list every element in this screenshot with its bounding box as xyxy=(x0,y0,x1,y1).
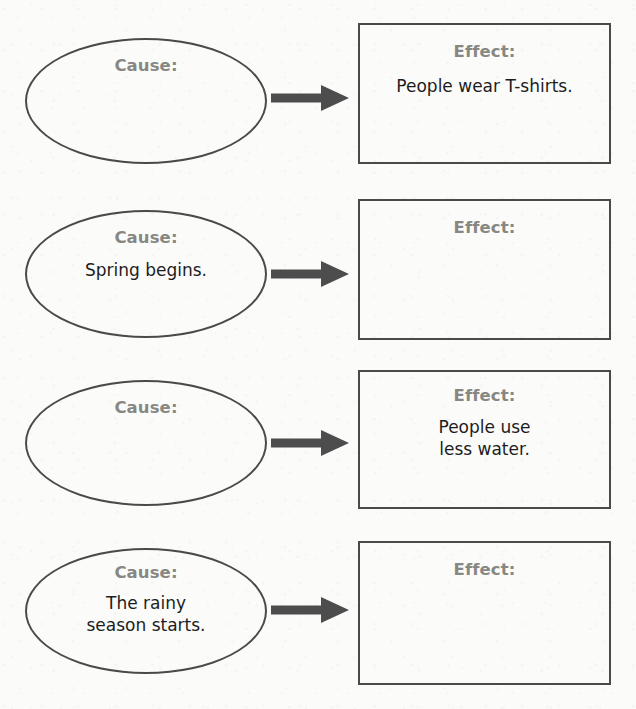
effect-text-1: People wear T-shirts. xyxy=(396,75,572,97)
right-arrow-icon-2 xyxy=(271,258,351,290)
cause-text-4: The rainy season starts. xyxy=(86,593,205,637)
right-arrow-icon-3 xyxy=(271,427,351,459)
cause-oval-1[interactable]: Cause: xyxy=(25,38,267,164)
right-arrow-icon-1 xyxy=(271,82,351,114)
cause-oval-4[interactable]: Cause: The rainy season starts. xyxy=(25,548,267,674)
effect-label-2: Effect: xyxy=(454,218,516,237)
effect-box-1[interactable]: Effect: People wear T-shirts. xyxy=(358,23,611,164)
effect-label-1: Effect: xyxy=(454,42,516,61)
effect-text-3: People use less water. xyxy=(439,416,531,460)
effect-box-4[interactable]: Effect: xyxy=(358,541,611,685)
cause-label-1: Cause: xyxy=(114,56,177,75)
cause-effect-row: Cause: Spring begins. Effect: xyxy=(0,180,636,358)
cause-label-4: Cause: xyxy=(114,563,177,582)
right-arrow-icon-4 xyxy=(271,594,351,626)
cause-label-3: Cause: xyxy=(114,398,177,417)
cause-oval-3[interactable]: Cause: xyxy=(25,380,267,506)
effect-box-3[interactable]: Effect: People use less water. xyxy=(358,370,611,509)
cause-effect-row: Cause: Effect: People wear T-shirts. xyxy=(0,0,636,180)
cause-oval-2[interactable]: Cause: Spring begins. xyxy=(25,210,267,338)
cause-effect-row: Cause: The rainy season starts. Effect: xyxy=(0,528,636,709)
effect-box-2[interactable]: Effect: xyxy=(358,199,611,340)
effect-label-4: Effect: xyxy=(454,560,516,579)
cause-label-2: Cause: xyxy=(114,228,177,247)
cause-text-2: Spring begins. xyxy=(85,260,207,282)
cause-and-effect-worksheet: Cause: Effect: People wear T-shirts. Cau… xyxy=(0,0,636,709)
effect-label-3: Effect: xyxy=(454,386,516,405)
cause-effect-row: Cause: Effect: People use less water. xyxy=(0,358,636,528)
